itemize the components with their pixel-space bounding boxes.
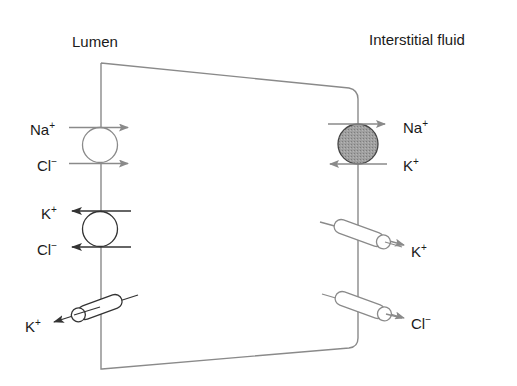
basolateral-k-channel [320, 218, 404, 251]
apical-k-channel [54, 293, 138, 324]
ion-label-k-apical-channel: K+ [25, 319, 41, 334]
nacl-cotransporter [69, 128, 128, 164]
ion-label-cl-basolateral-channel: Cl− [411, 316, 431, 331]
ion-label-na-basolateral: Na+ [403, 120, 428, 135]
na-k-pump [328, 124, 387, 164]
ion-label-cl-apical-in: Cl− [37, 158, 57, 173]
lumen-label: Lumen [72, 34, 118, 49]
ion-label-na-apical: Na+ [30, 122, 55, 137]
cell-membrane [101, 63, 358, 369]
ion-label-k-apical-out: K+ [41, 206, 57, 221]
ion-label-k-basolateral-channel: K+ [411, 244, 427, 259]
interstitial-fluid-label: Interstitial fluid [369, 32, 465, 47]
basolateral-cl-channel [322, 290, 404, 323]
kcl-cotransporter [72, 211, 131, 247]
ion-label-cl-apical-out: Cl− [37, 242, 57, 257]
epithelial-cell-diagram [0, 0, 517, 386]
ion-label-k-basolateral-in: K+ [403, 158, 419, 173]
